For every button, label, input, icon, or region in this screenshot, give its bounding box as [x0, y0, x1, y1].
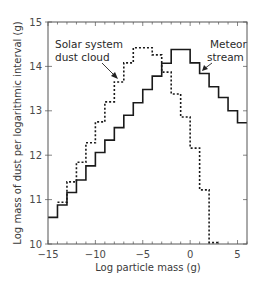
arrowhead-icon — [202, 65, 208, 71]
series-meteor-stream — [48, 50, 247, 218]
y-tick-label: 14 — [29, 61, 42, 72]
y-tick-label: 11 — [29, 194, 42, 205]
svg-text:dust cloud: dust cloud — [55, 51, 110, 63]
svg-text:Solar system: Solar system — [55, 38, 123, 50]
svg-text:stream: stream — [207, 51, 244, 63]
series-dust-cloud — [57, 48, 218, 243]
y-tick-label: 12 — [29, 150, 42, 161]
x-tick-label: −10 — [85, 249, 106, 260]
annotation-dust-cloud: Solar system dust cloud — [55, 38, 123, 79]
x-axis-label: Log particle mass (g) — [95, 262, 201, 273]
x-tick-label: 0 — [187, 249, 193, 260]
x-tick-label: −5 — [135, 249, 150, 260]
step-chart: −15−10−505101112131415 Log particle mass… — [0, 0, 264, 291]
y-axis-label: Log mass of dust per logarithmic interva… — [12, 21, 23, 244]
x-tick-label: 5 — [234, 249, 240, 260]
x-tick-label: −15 — [37, 249, 58, 260]
series-layer — [48, 48, 247, 243]
svg-text:Meteor: Meteor — [210, 38, 248, 50]
annotation-meteor-stream: Meteor stream — [202, 38, 248, 71]
y-tick-label: 13 — [29, 105, 42, 116]
y-tick-label: 10 — [29, 239, 42, 250]
y-tick-label: 15 — [29, 17, 42, 28]
